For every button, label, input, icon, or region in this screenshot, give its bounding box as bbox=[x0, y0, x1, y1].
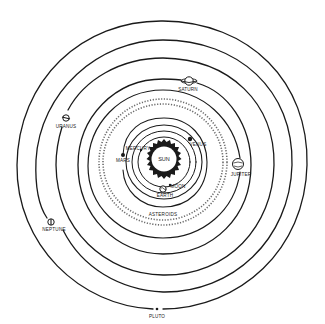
label-jupiter: JUPITER bbox=[231, 172, 252, 177]
planet-jupiter: JUPITER bbox=[231, 159, 252, 178]
planet-venus: VENUS bbox=[188, 137, 207, 147]
jupiter-icon bbox=[233, 159, 244, 170]
planet-mars: MARS bbox=[116, 153, 130, 163]
venus-icon bbox=[188, 137, 192, 141]
planet-mercury: MERCURY bbox=[126, 146, 151, 151]
label-uranus: URANUS bbox=[56, 124, 77, 129]
planet-neptune: NEPTUNE bbox=[42, 219, 65, 232]
planet-uranus: URANUS bbox=[56, 115, 77, 129]
saturn-icon bbox=[185, 77, 193, 85]
solar-system-diagram: SUN MERCURY VENUS MARS EARTH MOON ASTERO… bbox=[0, 0, 325, 324]
label-asteroids: ASTEROIDS bbox=[149, 212, 177, 217]
earth-icon bbox=[160, 186, 166, 192]
label-saturn: SATURN bbox=[178, 87, 198, 92]
planet-saturn: SATURN bbox=[178, 77, 198, 92]
label-venus: VENUS bbox=[190, 142, 207, 147]
mars-icon bbox=[121, 153, 125, 157]
moon: MOON bbox=[169, 184, 186, 189]
label-moon: MOON bbox=[170, 184, 185, 189]
label-neptune: NEPTUNE bbox=[42, 227, 65, 232]
label-mars: MARS bbox=[116, 158, 130, 163]
pluto-icon bbox=[156, 308, 159, 311]
label-earth: EARTH bbox=[157, 193, 174, 198]
label-mercury: MERCURY bbox=[126, 146, 151, 151]
label-pluto: PLUTO bbox=[149, 314, 165, 319]
sun: SUN bbox=[147, 139, 182, 179]
label-sun: SUN bbox=[158, 156, 170, 162]
